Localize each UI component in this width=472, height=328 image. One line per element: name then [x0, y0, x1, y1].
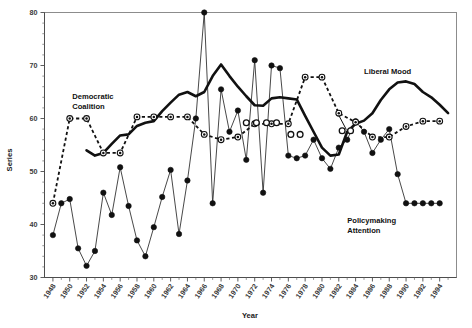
policymaking-attention-point	[176, 231, 181, 236]
series-vs-year-line-chart: 304050607080 194819501952195419561958196…	[0, 0, 472, 328]
open-circle-point	[288, 132, 294, 138]
policymaking-attention-point	[429, 201, 434, 206]
policymaking-attention-point	[319, 156, 324, 161]
policymaking-attention-point	[202, 10, 207, 15]
policymaking-attention-point	[437, 201, 442, 206]
policymaking-attention-point	[286, 153, 291, 158]
democratic-coalition-point-core	[321, 76, 324, 79]
chart-figure: 304050607080 194819501952195419561958196…	[0, 0, 472, 328]
democratic-coalition-point-core	[220, 138, 223, 141]
policymaking-attention-point	[126, 203, 131, 208]
democratic-coalition-point-core	[338, 112, 341, 115]
y-tick-label: 70	[30, 61, 38, 70]
policymaking-attention-point	[420, 201, 425, 206]
open-circle-point	[264, 120, 270, 126]
democratic-coalition-point-core	[388, 136, 391, 139]
policymaking-attention-point	[117, 165, 122, 170]
democratic-coalition-point-core	[85, 117, 88, 120]
policymaking-attention-point	[252, 58, 257, 63]
democratic-coalition-point-core	[102, 152, 105, 155]
democratic-coalition-point-core	[287, 123, 290, 126]
policymaking-attention-point	[193, 116, 198, 121]
open-circle-point	[274, 120, 280, 126]
policymaking-attention-point	[109, 212, 114, 217]
policymaking-attention-point	[92, 248, 97, 253]
democratic-coalition-point-core	[270, 123, 273, 126]
policymaking-attention-point	[160, 194, 165, 199]
democratic-coalition-point-core	[186, 116, 189, 119]
policymaking-attention-point	[50, 232, 55, 237]
policymaking-attention-point	[84, 263, 89, 268]
open-circle-point	[339, 128, 345, 134]
y-tick-label: 40	[30, 220, 38, 229]
y-axis-title: Series	[5, 149, 14, 172]
policymaking-attention-point	[260, 190, 265, 195]
policymaking-attention-point	[395, 171, 400, 176]
policymaking-attention-point	[387, 126, 392, 131]
democratic-coalition-point-core	[119, 152, 122, 155]
democratic-coalition-point-core	[237, 136, 240, 139]
open-circle-point	[348, 128, 354, 134]
series-annotation-label: Policymaking	[347, 216, 396, 225]
policymaking-attention-point	[403, 201, 408, 206]
policymaking-attention-point	[185, 178, 190, 183]
policymaking-attention-point	[218, 87, 223, 92]
policymaking-attention-point	[235, 108, 240, 113]
x-axis-title: Year	[242, 311, 258, 320]
democratic-coalition-point-core	[422, 120, 425, 123]
open-circle-point	[253, 120, 259, 126]
democratic-coalition-point-core	[354, 121, 357, 124]
policymaking-attention-point	[101, 190, 106, 195]
policymaking-attention-point	[370, 150, 375, 155]
policymaking-attention-point	[59, 201, 64, 206]
chart-background	[0, 0, 472, 328]
democratic-coalition-point-core	[169, 116, 172, 119]
democratic-coalition-point-core	[52, 202, 55, 205]
democratic-coalition-point-core	[68, 117, 71, 120]
policymaking-attention-point	[134, 238, 139, 243]
open-circle-point	[297, 132, 303, 138]
policymaking-attention-point	[294, 156, 299, 161]
y-tick-label: 30	[30, 273, 38, 282]
y-tick-label: 50	[30, 167, 38, 176]
democratic-coalition-point-core	[304, 76, 307, 79]
policymaking-attention-point	[75, 246, 80, 251]
democratic-coalition-point-core	[136, 116, 139, 119]
democratic-coalition-point-core	[153, 116, 156, 119]
y-tick-label: 60	[30, 114, 38, 123]
policymaking-attention-point	[302, 153, 307, 158]
y-tick-label: 80	[30, 8, 38, 17]
series-annotation-label-line2: Coalition	[72, 102, 105, 111]
policymaking-attention-point	[277, 65, 282, 70]
policymaking-attention-point	[328, 166, 333, 171]
democratic-coalition-point-core	[203, 133, 206, 136]
policymaking-attention-point	[67, 196, 72, 201]
democratic-coalition-point-core	[371, 136, 374, 139]
policymaking-attention-point	[168, 167, 173, 172]
policymaking-attention-point	[412, 201, 417, 206]
policymaking-attention-point	[143, 254, 148, 259]
policymaking-attention-point	[227, 129, 232, 134]
democratic-coalition-point-core	[405, 125, 408, 128]
open-circle-point	[243, 120, 249, 126]
policymaking-attention-point	[244, 157, 249, 162]
series-annotation-label: Liberal Mood	[364, 67, 412, 76]
policymaking-attention-point	[210, 201, 215, 206]
democratic-coalition-point-core	[438, 120, 441, 123]
policymaking-attention-point	[269, 63, 274, 68]
series-annotation-label-line2: Attention	[347, 226, 381, 235]
policymaking-attention-point	[151, 224, 156, 229]
series-annotation-label: Democratic	[72, 92, 113, 101]
